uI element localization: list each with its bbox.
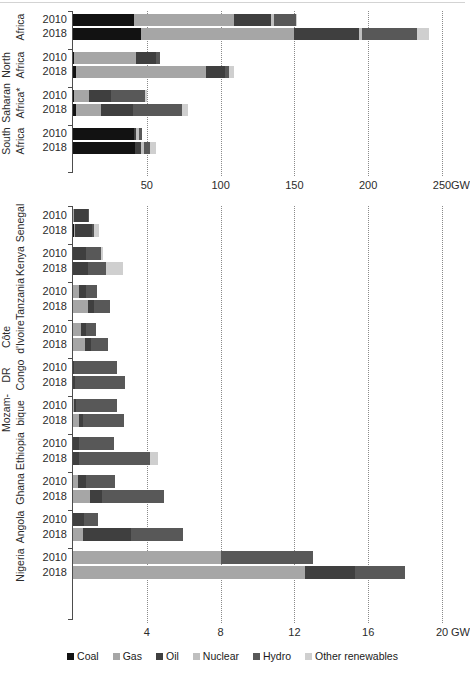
- y-axis-group-tick: [68, 396, 73, 397]
- x-tick-label: 50: [127, 179, 167, 191]
- legend-swatch-icon: [156, 653, 163, 660]
- year-label: 2018: [31, 141, 67, 153]
- legend-swatch-icon: [113, 653, 120, 660]
- bar-segment-coal: [73, 128, 134, 140]
- year-label: 2018: [31, 528, 67, 540]
- y-axis-group-tick: [68, 87, 73, 88]
- bar-segment-hydro: [79, 452, 149, 465]
- legend-item-other-renewables[interactable]: Other renewables: [305, 650, 398, 662]
- y-axis-group-tick: [68, 244, 73, 245]
- bar-segment-gas: [134, 14, 234, 26]
- bar-segment-hydro: [79, 437, 114, 450]
- bar-segment-gas: [73, 490, 90, 503]
- x-tick-label: 16: [348, 626, 388, 638]
- legend-item-coal[interactable]: Coal: [67, 650, 99, 662]
- legend-item-gas[interactable]: Gas: [113, 650, 142, 662]
- bar-segment-hydro: [74, 361, 117, 374]
- legend-swatch-icon: [193, 653, 200, 660]
- year-label: 2010: [31, 513, 67, 525]
- bar-segment-other-renewables: [182, 104, 188, 116]
- bar-segment-other-renewables: [94, 224, 99, 237]
- bar-north-africa-2010: [73, 52, 160, 64]
- bar-segment-hydro: [133, 104, 182, 116]
- bar-dr-congo-2018: [73, 376, 125, 389]
- legend-label: Gas: [123, 650, 142, 662]
- year-label: 2010: [31, 551, 67, 563]
- bar-segment-other-renewables: [296, 14, 297, 26]
- y-axis-group-tick: [68, 548, 73, 549]
- year-label: 2010: [31, 209, 67, 221]
- legend-label: Hydro: [263, 650, 291, 662]
- bar-senegal-2018: [73, 224, 99, 237]
- bar-segment-other-renewables: [150, 142, 156, 154]
- bar-segment-oil: [89, 90, 111, 102]
- bar-mozambique-2010: [73, 399, 117, 412]
- year-label: 2018: [31, 300, 67, 312]
- year-label: 2018: [31, 103, 67, 115]
- bar-segment-hydro: [274, 14, 296, 26]
- group-label-south-africa: South: [0, 110, 13, 172]
- legend-label: Oil: [166, 650, 179, 662]
- bar-sub-saharan-africa--2018: [73, 104, 188, 116]
- y-axis-group-tick: [68, 510, 73, 511]
- bar-segment-oil: [136, 52, 155, 64]
- year-label: 2010: [31, 361, 67, 373]
- bar-angola-2010: [73, 513, 98, 526]
- bar-segment-oil: [90, 490, 102, 503]
- gridline-20: [442, 206, 443, 623]
- bar-africa-2010: [73, 14, 297, 26]
- bar-segment-gas: [141, 28, 294, 40]
- bar-segment-hydro: [156, 52, 160, 64]
- bar-tanzania-2018: [73, 300, 110, 313]
- bar-ethiopia-2018: [73, 452, 158, 465]
- bar-ghana-2010: [73, 475, 115, 488]
- legend-item-nuclear[interactable]: Nuclear: [193, 650, 239, 662]
- x-tick-label: 8: [201, 626, 241, 638]
- bar-segment-hydro: [84, 513, 98, 526]
- group-label-south-africa: Africa: [13, 110, 27, 172]
- bar-segment-hydro: [91, 338, 108, 351]
- bar-segment-hydro: [86, 285, 97, 298]
- bar-mozambique-2018: [73, 414, 124, 427]
- bar-segment-other-renewables: [417, 28, 429, 40]
- y-axis-group-tick: [68, 206, 73, 207]
- legend-item-hydro[interactable]: Hydro: [253, 650, 291, 662]
- bar-segment-hydro: [102, 490, 165, 503]
- y-axis-group-tick: [68, 282, 73, 283]
- bar-segment-hydro: [131, 528, 183, 541]
- bar-nigeria-2010: [73, 551, 313, 564]
- bar-north-africa-2018: [73, 66, 234, 78]
- y-axis-group-tick: [68, 434, 73, 435]
- bar-segment-oil: [73, 262, 88, 275]
- y-axis-group-tick: [68, 49, 73, 50]
- x-tick-label: 200: [348, 179, 388, 191]
- year-label: 2010: [31, 13, 67, 25]
- legend: CoalGasOilNuclearHydroOther renewables: [0, 648, 465, 664]
- y-axis-group-tick: [68, 125, 73, 126]
- bar-south-africa-2010: [73, 128, 142, 140]
- legend-label: Nuclear: [203, 650, 239, 662]
- year-label: 2018: [31, 65, 67, 77]
- bar-segment-hydro: [221, 551, 313, 564]
- bar-segment-gas: [76, 66, 206, 78]
- bar-segment-hydro: [83, 414, 124, 427]
- bar-nigeria-2018: [73, 566, 405, 579]
- bar-segment-hydro: [76, 399, 117, 412]
- bar-segment-coal: [73, 14, 134, 26]
- bar-senegal-2010: [73, 209, 89, 222]
- legend-item-oil[interactable]: Oil: [156, 650, 179, 662]
- year-label: 2018: [31, 452, 67, 464]
- bar-segment-hydro: [355, 566, 405, 579]
- year-label: 2018: [31, 490, 67, 502]
- x-tick-label: 12: [274, 626, 314, 638]
- bar-segment-hydro: [139, 128, 142, 140]
- legend-swatch-icon: [253, 653, 260, 660]
- year-label: 2010: [31, 399, 67, 411]
- bar-segment-hydro: [86, 247, 101, 260]
- bar-segment-oil: [74, 209, 88, 222]
- year-label: 2018: [31, 376, 67, 388]
- bar-segment-gas: [73, 323, 81, 336]
- year-label: 2018: [31, 414, 67, 426]
- bar-segment-oil: [73, 513, 84, 526]
